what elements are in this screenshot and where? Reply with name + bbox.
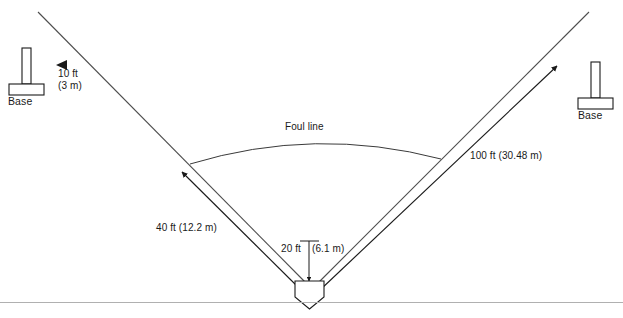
base-marker-right	[578, 62, 613, 109]
foul-line-label: Foul line	[285, 121, 324, 132]
base-marker-left	[9, 48, 44, 95]
clearance-label-feet: 10 ft	[58, 68, 78, 79]
clearance-label-meters: (3 m)	[58, 80, 82, 91]
base-plate-left	[9, 84, 44, 95]
foul-line-right-boundary	[318, 12, 589, 283]
home-plate-icon	[295, 281, 324, 309]
dimension-arrow-right-100ft	[320, 66, 557, 290]
base-label-left: Base	[8, 95, 32, 107]
base-post-right	[591, 62, 600, 98]
base-label-right: Base	[578, 109, 602, 121]
base-post-left	[22, 48, 31, 84]
foul-line-arc	[190, 144, 441, 164]
base-plate-right	[578, 98, 613, 109]
plate-offset-label-meters: (6.1 m)	[312, 243, 344, 254]
foul-line-length-label: 100 ft (30.48 m)	[470, 150, 542, 161]
field-diagram: Base Base 10 ft (3 m) Foul line 100 ft (…	[0, 0, 623, 318]
plate-offset-label-feet: 20 ft	[281, 243, 301, 254]
base-distance-label: 40 ft (12.2 m)	[156, 222, 217, 233]
